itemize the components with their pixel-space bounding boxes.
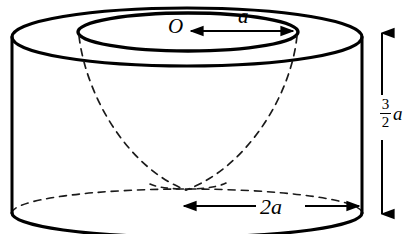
height-denominator: 2 xyxy=(381,114,391,130)
geometry-figure: O a 2a 3 2 a xyxy=(0,0,410,234)
radius-label: a xyxy=(238,6,249,27)
top-outer-ellipse xyxy=(12,8,362,66)
figure-svg xyxy=(0,0,410,234)
height-unit: a xyxy=(393,104,403,123)
paraboloid-left-dashed xyxy=(79,36,186,190)
height-numerator: 3 xyxy=(381,97,391,113)
bottom-ellipse-front xyxy=(12,213,362,234)
bottom-ellipse-back-dashed xyxy=(12,189,362,213)
height-label: 3 2 a xyxy=(380,97,403,130)
paraboloid-right-dashed xyxy=(186,36,297,190)
center-point-label: O xyxy=(168,16,183,37)
height-fraction: 3 2 xyxy=(380,97,391,130)
diameter-label: 2a xyxy=(260,196,282,218)
paraboloid-base-dashed xyxy=(150,183,226,189)
